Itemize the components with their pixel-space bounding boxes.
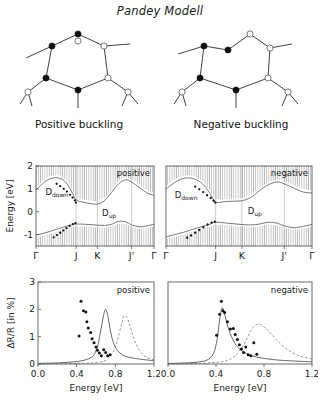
svg-text:negative: negative <box>271 168 308 178</box>
svg-text:J': J' <box>281 250 287 261</box>
atom-open <box>179 89 185 95</box>
svg-text:0.4: 0.4 <box>209 369 224 379</box>
svg-text:Γ: Γ <box>309 250 315 261</box>
svg-text:0.8: 0.8 <box>108 369 123 379</box>
svg-text:2: 2 <box>27 161 33 171</box>
svg-text:1: 1 <box>29 332 35 342</box>
atom-filled <box>201 43 207 49</box>
svg-text:Energy [eV]: Energy [eV] <box>5 179 15 232</box>
svg-text:1.2: 1.2 <box>147 369 160 379</box>
band-structure-positive: 210-1Energy [eV]ΓJKJ'ΓpositiveDdownDup <box>2 158 160 270</box>
svg-text:J: J <box>213 250 217 261</box>
atom-filled <box>75 31 81 37</box>
svg-text:negative: negative <box>271 285 308 295</box>
svg-text:Energy [eV]: Energy [eV] <box>69 383 122 393</box>
svg-text:0: 0 <box>27 207 33 217</box>
atom-filled <box>197 75 203 81</box>
caption-negative: Negative buckling <box>166 118 316 130</box>
atom-filled <box>225 47 231 53</box>
svg-text:0: 0 <box>29 359 35 369</box>
atom-open <box>285 89 291 95</box>
figure-root: Pandey Modell <box>0 0 320 407</box>
atom-open <box>267 45 273 51</box>
band-structure-negative: ΓJKJ'ΓnegativeDdownDup <box>160 158 318 270</box>
svg-text:1: 1 <box>27 184 33 194</box>
structure-diagram-negative <box>166 20 316 115</box>
svg-text:Ddown: Ddown <box>175 190 198 201</box>
atom-filled <box>49 43 55 49</box>
spectrum-negative: 0.00.40.81.2Energy [eV]negative <box>160 272 318 404</box>
atom-filled <box>233 87 239 93</box>
svg-text:positive: positive <box>117 285 150 295</box>
atom-filled <box>43 75 49 81</box>
atom-filled <box>75 87 81 93</box>
svg-text:1.2: 1.2 <box>305 369 318 379</box>
svg-text:0.0: 0.0 <box>161 369 176 379</box>
svg-text:K: K <box>94 250 101 261</box>
svg-text:-1: -1 <box>24 230 33 240</box>
atom-open <box>75 38 81 44</box>
caption-positive: Positive buckling <box>4 118 154 130</box>
svg-text:Ddown: Ddown <box>45 187 68 198</box>
svg-text:0.0: 0.0 <box>31 369 46 379</box>
svg-text:0.8: 0.8 <box>257 369 272 379</box>
svg-text:ΔR/R [in %]: ΔR/R [in %] <box>6 297 16 348</box>
svg-text:J': J' <box>128 250 134 261</box>
svg-text:K: K <box>239 250 246 261</box>
svg-text:Γ: Γ <box>151 250 157 261</box>
atom-open <box>105 75 111 81</box>
structure-diagram-positive <box>8 20 158 115</box>
svg-text:0.4: 0.4 <box>70 369 85 379</box>
atom-open <box>265 75 271 81</box>
svg-text:2: 2 <box>29 304 35 314</box>
atom-open <box>247 31 253 37</box>
svg-text:Dup: Dup <box>248 206 262 218</box>
spectrum-positive: 0.00.40.81.2Energy [eV]0123ΔR/R [in %]po… <box>2 272 160 404</box>
page-title: Pandey Modell <box>0 4 320 18</box>
svg-text:Γ: Γ <box>163 250 169 261</box>
svg-text:positive: positive <box>117 168 150 178</box>
svg-text:Γ: Γ <box>33 250 39 261</box>
atom-open <box>125 89 131 95</box>
svg-text:3: 3 <box>29 277 35 287</box>
atom-open <box>25 89 31 95</box>
atom-open <box>101 43 107 49</box>
svg-text:Energy [eV]: Energy [eV] <box>213 383 266 393</box>
svg-text:J: J <box>74 250 78 261</box>
svg-text:Dup: Dup <box>102 208 116 220</box>
